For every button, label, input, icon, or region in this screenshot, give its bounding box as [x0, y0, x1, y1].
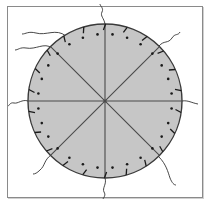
dot — [167, 122, 170, 125]
diagram-stage: Circular disc divided into eight equal s… — [0, 0, 206, 202]
rim-tick — [35, 132, 41, 133]
sector-disc-diagram — [0, 0, 206, 202]
thread-top-left-lower — [15, 46, 52, 50]
dot — [37, 107, 40, 110]
dot — [139, 156, 142, 159]
dot — [126, 37, 129, 40]
dot — [160, 64, 163, 67]
dot — [82, 37, 85, 40]
dot — [37, 92, 40, 95]
dot — [139, 43, 142, 46]
thread-bottom-right — [159, 157, 176, 185]
thread-top — [100, 4, 105, 24]
dot — [56, 52, 59, 55]
thread-left — [8, 101, 28, 106]
dot — [170, 92, 173, 95]
dot — [96, 166, 99, 169]
dot — [111, 33, 114, 36]
center-hub — [103, 99, 106, 102]
thread-top-left-upper — [22, 32, 66, 36]
rim-tick — [169, 70, 175, 71]
thread-bottom-left — [33, 155, 51, 174]
dot — [68, 43, 71, 46]
thread-bottom — [103, 178, 105, 199]
dot — [96, 33, 99, 36]
thread-right — [182, 101, 198, 104]
dot — [47, 135, 50, 138]
dot — [170, 107, 173, 110]
dot — [41, 122, 44, 125]
dot — [167, 78, 170, 81]
thread-top-right — [159, 32, 180, 46]
dot — [160, 135, 163, 138]
dot — [82, 163, 85, 166]
dot — [111, 166, 114, 169]
dot — [126, 163, 129, 166]
dot — [151, 147, 154, 150]
dot — [47, 64, 50, 67]
dot — [151, 52, 154, 55]
dot — [68, 156, 71, 159]
dot — [56, 147, 59, 150]
dot — [41, 78, 44, 81]
